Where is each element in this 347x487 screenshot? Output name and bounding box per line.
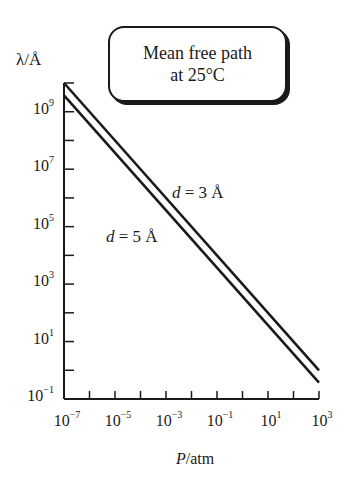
- chart-title-line-2: at 25°C: [110, 64, 285, 86]
- x-axis-label: P/atm: [176, 450, 214, 468]
- tick-marks: [64, 83, 319, 399]
- series-line: [64, 83, 319, 370]
- y-tick-label: 105: [10, 215, 54, 233]
- y-tick-label: 103: [10, 272, 54, 290]
- y-tick-label: 107: [10, 157, 54, 175]
- y-tick-label: 101: [10, 330, 54, 348]
- y-tick-label: 109: [10, 100, 54, 118]
- x-tick-label: 101: [246, 412, 296, 430]
- y-axis-label: λ/Å: [16, 50, 41, 70]
- x-tick-label: 103: [297, 412, 347, 430]
- series-lines: [64, 83, 319, 383]
- x-tick-label: 10−5: [93, 412, 143, 430]
- y-tick-label: 10−1: [10, 387, 54, 405]
- x-tick-label: 10−7: [42, 412, 92, 430]
- annotation-d5: d = 5 Å: [106, 227, 158, 247]
- axes: [64, 83, 319, 399]
- chart-title-line-1: Mean free path: [110, 42, 285, 64]
- x-tick-label: 10−1: [195, 412, 245, 430]
- x-tick-label: 10−3: [144, 412, 194, 430]
- series-line: [64, 95, 319, 382]
- annotation-d3: d = 3 Å: [172, 183, 224, 203]
- chart-title-box: Mean free path at 25°C: [108, 26, 287, 102]
